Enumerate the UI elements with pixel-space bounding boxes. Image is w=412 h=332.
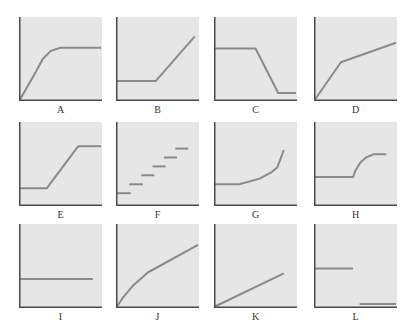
line-graph [314,224,397,308]
panel-label: I [19,311,102,322]
plot-area [116,17,199,101]
chart-panel-e [19,122,102,206]
line-graph [19,224,102,308]
panel-label: B [116,104,199,115]
panel-label: E [19,209,102,220]
chart-panel-f [116,122,199,206]
chart-panel-k [214,224,297,308]
line-graph [116,224,199,308]
plot-area [19,224,102,308]
plot-area [214,17,297,101]
chart-panel-d [314,17,397,101]
line-graph [19,17,102,101]
panel-label: J [116,311,199,322]
plot-area [214,122,297,206]
panel-label: K [214,311,297,322]
panel-label: L [314,311,397,322]
chart-panel-h [314,122,397,206]
plot-area [19,17,102,101]
chart-panel-a [19,17,102,101]
plot-area [314,17,397,101]
line-graph [19,122,102,206]
panel-label: D [314,104,397,115]
chart-panel-c [214,17,297,101]
line-graph [116,17,199,101]
chart-panel-l [314,224,397,308]
plot-area [19,122,102,206]
chart-panel-g [214,122,297,206]
line-graph [214,17,297,101]
line-graph [214,224,297,308]
chart-panel-b [116,17,199,101]
line-graph [116,122,199,206]
panel-label: C [214,104,297,115]
plot-area [314,224,397,308]
line-graph [214,122,297,206]
chart-panel-i [19,224,102,308]
line-graph [314,17,397,101]
chart-panel-j [116,224,199,308]
line-graph [314,122,397,206]
panel-label: H [314,209,397,220]
panel-label: G [214,209,297,220]
plot-area [116,224,199,308]
plot-area [214,224,297,308]
panel-label: F [116,209,199,220]
panel-label: A [19,104,102,115]
plot-area [314,122,397,206]
